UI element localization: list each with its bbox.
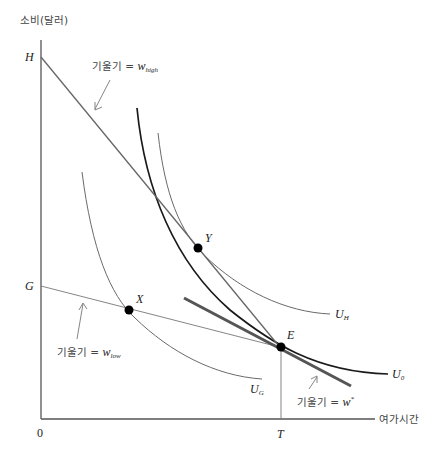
curve-label-ug: UG	[250, 382, 264, 397]
point-y-label: Y	[205, 231, 213, 245]
arrow-icon	[95, 80, 110, 110]
point-y	[194, 244, 203, 253]
tick-g-label: G	[25, 279, 34, 293]
tangent-line-wstar	[184, 298, 351, 386]
point-x-label: X	[135, 292, 144, 306]
curve-label-uh: UH	[335, 307, 350, 322]
slope-wstar-annotation: 기울기 = w*	[297, 395, 355, 409]
point-e	[277, 343, 286, 352]
curve-label-u0: U0	[392, 367, 405, 382]
x-axis-label: 여가시간	[379, 413, 419, 425]
indifference-curve-uh	[158, 133, 330, 314]
tick-t-label: T	[277, 427, 285, 441]
arrow-icon	[77, 303, 87, 339]
y-axis-label: 소비(달러)	[20, 14, 68, 26]
origin-label: 0	[37, 426, 43, 440]
labor-supply-diagram: 소비(달러) 여가시간 0 H G T 기울기 = whigh 기울기 = wl…	[0, 0, 436, 461]
point-e-label: E	[286, 328, 295, 342]
arrow-icon	[309, 376, 317, 389]
indifference-curve-u0	[137, 108, 388, 374]
point-x	[125, 306, 134, 315]
budget-line-high	[41, 57, 283, 351]
slope-low-annotation: 기울기 = wlow	[57, 345, 121, 360]
slope-high-annotation: 기울기 = whigh	[92, 59, 158, 74]
tick-h-label: H	[24, 50, 35, 64]
